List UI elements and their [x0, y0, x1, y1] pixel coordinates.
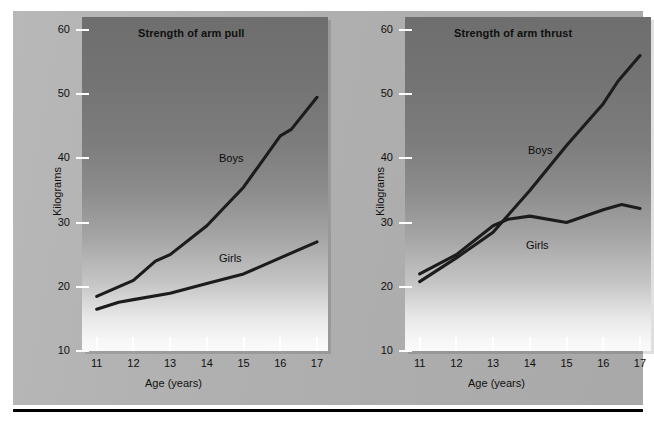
- x-tick-mark: [455, 337, 457, 351]
- y-tick-label: 50: [44, 88, 70, 99]
- y-tick-mark: [76, 29, 89, 31]
- y-tick-label: 40: [44, 152, 70, 163]
- x-tick-mark: [96, 337, 98, 351]
- y-tick-label: 20: [44, 281, 70, 292]
- y-tick-label: 20: [367, 281, 393, 292]
- y-tick-mark: [399, 222, 412, 224]
- plot-area-arm-thrust: [405, 17, 651, 351]
- x-tick-mark: [639, 337, 641, 351]
- chart-title-arm-pull: Strength of arm pull: [138, 27, 245, 39]
- y-tick-label: 30: [44, 217, 70, 228]
- x-tick-mark: [419, 337, 421, 351]
- y-tick-mark: [399, 286, 412, 288]
- y-tick-label: 50: [367, 88, 393, 99]
- y-tick-mark: [76, 222, 89, 224]
- plot-area-arm-pull: [82, 17, 328, 351]
- x-tick-mark: [529, 337, 531, 351]
- y-axis-label-arm-pull: Kilograms: [51, 167, 63, 216]
- y-tick-mark: [76, 93, 89, 95]
- y-tick-label: 30: [367, 217, 393, 228]
- series-label-girls-arm-thrust: Girls: [526, 239, 549, 251]
- x-tick-label: 11: [409, 358, 431, 369]
- y-tick-mark: [399, 157, 412, 159]
- chart-panel-arm-thrust: Strength of arm thrust Kilograms Age (ye…: [318, 11, 643, 405]
- x-tick-mark: [206, 337, 208, 351]
- x-tick-mark: [566, 337, 568, 351]
- y-tick-mark: [76, 157, 89, 159]
- y-axis-label-arm-thrust: Kilograms: [374, 167, 386, 216]
- series-canvas-arm-pull: [82, 17, 328, 351]
- series-label-boys-arm-pull: Boys: [219, 152, 243, 164]
- x-tick-label: 15: [556, 358, 578, 369]
- y-tick-mark: [399, 29, 412, 31]
- y-tick-label: 10: [44, 345, 70, 356]
- x-tick-mark: [602, 337, 604, 351]
- x-axis-label-arm-pull: Age (years): [145, 377, 202, 389]
- x-tick-label: 11: [86, 358, 108, 369]
- x-axis-label-arm-thrust: Age (years): [468, 377, 525, 389]
- y-tick-mark: [399, 93, 412, 95]
- y-tick-mark: [399, 350, 412, 352]
- chart-title-arm-thrust: Strength of arm thrust: [454, 27, 572, 39]
- figure-card: Strength of arm pull Kilograms Age (year…: [13, 11, 643, 405]
- x-tick-label: 13: [159, 358, 181, 369]
- y-tick-mark: [76, 350, 89, 352]
- series-line-girls: [97, 242, 317, 309]
- x-tick-mark: [169, 337, 171, 351]
- x-tick-mark: [132, 337, 134, 351]
- y-tick-label: 40: [367, 152, 393, 163]
- series-canvas-arm-thrust: [405, 17, 651, 351]
- x-tick-mark: [279, 337, 281, 351]
- series-label-girls-arm-pull: Girls: [219, 252, 242, 264]
- x-tick-label: 16: [269, 358, 291, 369]
- bottom-rule: [13, 409, 643, 412]
- y-tick-label: 60: [44, 24, 70, 35]
- x-tick-label: 14: [196, 358, 218, 369]
- series-label-boys-arm-thrust: Boys: [528, 144, 552, 156]
- series-line-boys: [97, 97, 317, 296]
- x-tick-label: 16: [592, 358, 614, 369]
- y-tick-label: 60: [367, 24, 393, 35]
- x-tick-mark: [243, 337, 245, 351]
- x-tick-label: 13: [482, 358, 504, 369]
- x-tick-label: 12: [122, 358, 144, 369]
- x-tick-label: 15: [233, 358, 255, 369]
- x-tick-label: 12: [445, 358, 467, 369]
- y-tick-label: 10: [367, 345, 393, 356]
- y-tick-mark: [76, 286, 89, 288]
- x-tick-label: 17: [629, 358, 651, 369]
- x-tick-label: 14: [519, 358, 541, 369]
- chart-panel-arm-pull: Strength of arm pull Kilograms Age (year…: [13, 11, 343, 405]
- x-tick-mark: [492, 337, 494, 351]
